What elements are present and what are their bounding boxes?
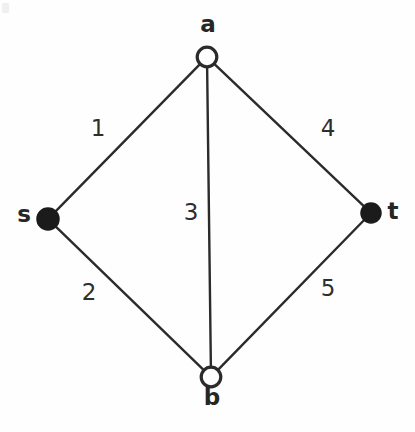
node-label-s: s xyxy=(17,201,31,227)
edge-weight-a-b: 3 xyxy=(184,199,199,225)
edge-weight-b-t: 5 xyxy=(321,275,336,301)
graph-diagram: 12345astb xyxy=(0,0,415,432)
graph-canvas: 12345astb xyxy=(0,0,415,432)
node-label-a: a xyxy=(200,11,216,37)
edges-group xyxy=(54,64,367,370)
graph-edge-s-b xyxy=(54,225,204,370)
node-label-b: b xyxy=(204,384,220,410)
graph-edge-s-a xyxy=(54,64,200,213)
node-label-t: t xyxy=(388,198,399,224)
graph-edge-a-b xyxy=(207,67,211,367)
edge-weight-s-b: 2 xyxy=(82,279,97,305)
edge-weight-a-t: 4 xyxy=(321,115,336,141)
graph-node-s[interactable] xyxy=(37,208,59,230)
graph-edge-a-t xyxy=(214,64,366,208)
graph-node-t[interactable] xyxy=(361,203,381,223)
graph-node-a[interactable] xyxy=(197,47,217,67)
edge-weight-s-a: 1 xyxy=(91,115,106,141)
graph-edge-b-t xyxy=(218,218,366,370)
